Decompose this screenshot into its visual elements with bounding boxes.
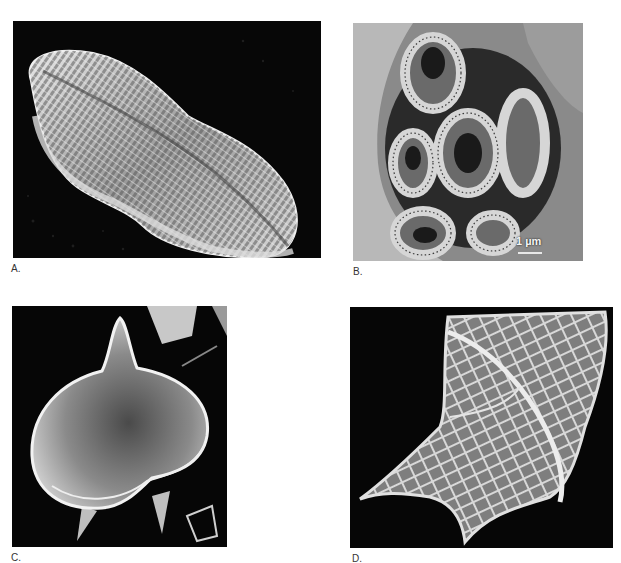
- diatom-image: [13, 21, 321, 258]
- panel-label-c: C.: [11, 552, 21, 563]
- panel-label-d: D.: [352, 553, 362, 563]
- reticulate-dinoflagellate-image: [350, 307, 613, 548]
- dinoflagellate-cyst-image: [12, 306, 227, 547]
- coccolithophore-image: [353, 23, 583, 261]
- micrograph-panel-b: 1 µm: [353, 23, 583, 261]
- panel-label-a: A.: [11, 263, 20, 274]
- micrograph-panel-a: [13, 21, 321, 258]
- scale-bar-label: 1 µm: [516, 235, 541, 247]
- scale-bar: [518, 252, 542, 254]
- micrograph-panel-d: [350, 307, 613, 548]
- panel-label-b: B.: [353, 266, 362, 277]
- micrograph-panel-c: [12, 306, 227, 547]
